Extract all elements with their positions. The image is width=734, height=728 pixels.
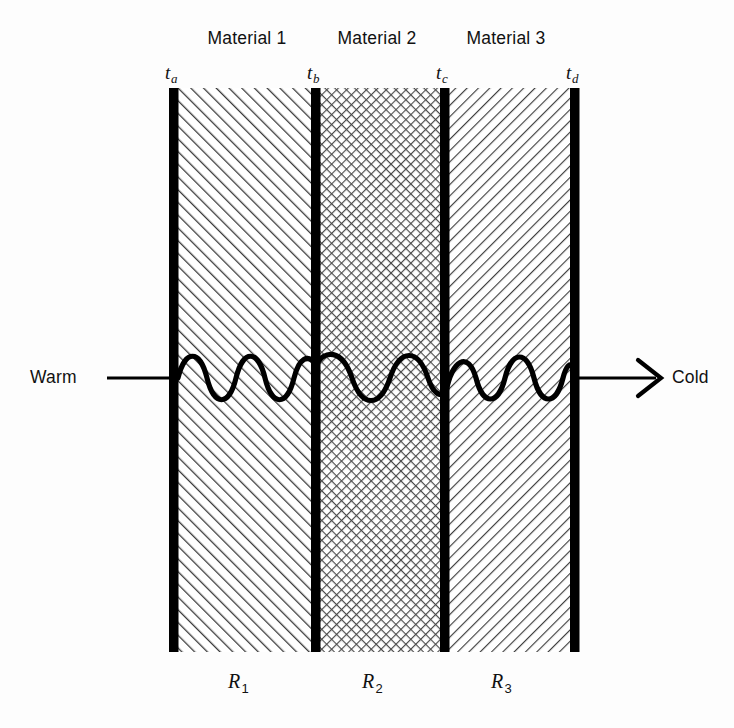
material-1-fill — [178, 88, 312, 652]
resistance-subscript: 3 — [504, 681, 511, 696]
temperature-label-tc: tc — [436, 62, 447, 84]
interface-bar-ta — [169, 88, 179, 652]
resistance-subscript: 1 — [241, 681, 248, 696]
temperature-label-td: td — [566, 62, 578, 84]
temperature-symbol: t — [436, 62, 441, 83]
material-1-label: Material 1 — [188, 28, 306, 49]
temperature-symbol: t — [307, 62, 312, 83]
temperature-subscript: a — [171, 71, 178, 86]
diagram-canvas — [0, 0, 734, 728]
temperature-subscript: d — [572, 71, 579, 86]
temperature-label-ta: ta — [165, 62, 177, 84]
warm-side-label: Warm — [30, 367, 77, 388]
temperature-subscript: b — [313, 71, 320, 86]
temperature-symbol: t — [165, 62, 170, 83]
temperature-subscript: c — [442, 71, 448, 86]
material-2-label: Material 2 — [318, 28, 436, 49]
resistance-label-r3: R3 — [491, 670, 511, 693]
resistance-label-r1: R1 — [228, 670, 248, 693]
resistance-symbol: R — [491, 670, 503, 692]
resistance-symbol: R — [362, 670, 374, 692]
interface-bar-tc — [440, 88, 450, 652]
resistance-symbol: R — [228, 670, 240, 692]
interface-bar-td — [570, 88, 580, 652]
resistance-label-r2: R2 — [362, 670, 382, 693]
interface-bar-tb — [311, 88, 321, 652]
resistance-subscript: 2 — [375, 681, 382, 696]
cold-side-label: Cold — [672, 367, 709, 388]
thermal-resistance-diagram: Material 1 Material 2 Material 3 ta tb t… — [0, 0, 734, 728]
temperature-label-tb: tb — [307, 62, 319, 84]
temperature-symbol: t — [566, 62, 571, 83]
material-3-label: Material 3 — [447, 28, 565, 49]
